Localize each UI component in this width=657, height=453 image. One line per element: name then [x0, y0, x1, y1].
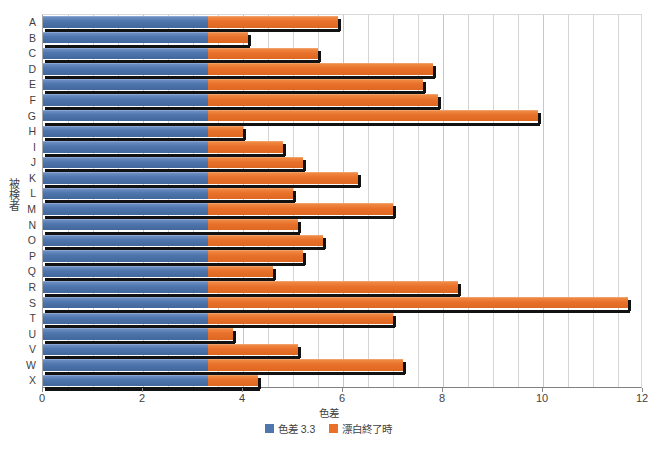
bar-shadow-edge	[303, 160, 306, 171]
x-axis-tick-label: 8	[422, 392, 462, 404]
bar-segment-final	[208, 48, 318, 59]
bar-segment-final	[208, 297, 628, 308]
bar-segment-final	[208, 281, 458, 292]
bar-group	[43, 359, 643, 370]
bar-chart: 被検者 ABCDEFGHIJKLMNOPQRSTUVWX 024681012 色…	[0, 0, 657, 453]
bar-group	[43, 281, 643, 292]
bar-segment-baseline	[43, 172, 208, 183]
bar-group	[43, 16, 643, 27]
bar-row: F	[43, 93, 641, 109]
y-axis-tick-label: K	[6, 171, 36, 187]
bar-segment-final	[208, 126, 243, 137]
bar-shadow-edge	[248, 35, 251, 46]
x-axis-tick-label: 10	[522, 392, 562, 404]
y-axis-tick-label: G	[6, 109, 36, 125]
legend-label: 色差 3.3	[278, 421, 316, 436]
bar-group	[43, 172, 643, 183]
bar-segment-final	[208, 157, 303, 168]
bar-group	[43, 266, 643, 277]
bar-group	[43, 250, 643, 261]
bar-segment-final	[208, 172, 358, 183]
bar-group	[43, 375, 643, 386]
bar-row: N	[43, 218, 641, 234]
legend-swatch-icon	[329, 424, 338, 433]
bar-segment-final	[208, 79, 423, 90]
chart-legend: 色差 3.3漂白終了時	[0, 421, 657, 436]
bar-row: H	[43, 124, 641, 140]
bar-row: X	[43, 373, 641, 389]
bar-segment-baseline	[43, 375, 208, 386]
bar-segment-final	[208, 328, 233, 339]
bar-segment-final	[208, 203, 393, 214]
y-axis-tick-label: R	[6, 280, 36, 296]
bar-row: Q	[43, 264, 641, 280]
bar-shadow-edge	[393, 316, 396, 327]
bar-shadow-edge	[293, 191, 296, 202]
bar-shadow-edge	[233, 331, 236, 342]
bar-row: W	[43, 358, 641, 374]
bar-group	[43, 32, 643, 43]
bar-shadow-edge	[358, 175, 361, 186]
bar-row: A	[43, 15, 641, 31]
y-axis-tick-label: M	[6, 202, 36, 218]
x-axis-tick-label: 12	[622, 392, 657, 404]
y-axis-tick-label: I	[6, 140, 36, 156]
bar-segment-final	[208, 219, 298, 230]
bar-shadow-edge	[538, 113, 541, 124]
legend-item[interactable]: 漂白終了時	[329, 421, 392, 436]
bar-segment-baseline	[43, 313, 208, 324]
bar-segment-final	[208, 235, 323, 246]
bar-row: C	[43, 46, 641, 62]
bar-segment-final	[208, 344, 298, 355]
bar-group	[43, 297, 643, 308]
bar-segment-baseline	[43, 359, 208, 370]
bar-group	[43, 328, 643, 339]
y-axis-tick-label: X	[6, 373, 36, 389]
y-axis-tick-label: J	[6, 155, 36, 171]
bar-group	[43, 126, 643, 137]
y-axis-tick-label: O	[6, 233, 36, 249]
bar-row: R	[43, 280, 641, 296]
bar-segment-final	[208, 63, 433, 74]
bar-group	[43, 344, 643, 355]
bar-row: U	[43, 327, 641, 343]
y-axis-tick-label: Q	[6, 264, 36, 280]
bar-segment-baseline	[43, 48, 208, 59]
legend-item[interactable]: 色差 3.3	[265, 421, 316, 436]
bar-segment-baseline	[43, 79, 208, 90]
y-axis-tick-label: D	[6, 62, 36, 78]
bar-shadow-edge	[393, 206, 396, 217]
y-axis-tick-label: L	[6, 186, 36, 202]
bar-segment-baseline	[43, 344, 208, 355]
bar-group	[43, 313, 643, 324]
y-axis-tick-label: S	[6, 296, 36, 312]
bar-row: S	[43, 296, 641, 312]
bar-segment-final	[208, 359, 403, 370]
bar-row: G	[43, 109, 641, 125]
bar-shadow-edge	[338, 19, 341, 30]
bar-row: T	[43, 311, 641, 327]
bar-shadow-edge	[298, 222, 301, 233]
bar-row: E	[43, 77, 641, 93]
bar-segment-baseline	[43, 63, 208, 74]
bar-shadow-edge	[403, 362, 406, 373]
x-axis-title: 色差	[0, 405, 657, 420]
bar-group	[43, 203, 643, 214]
bar-row: V	[43, 342, 641, 358]
y-axis-tick-label: N	[6, 218, 36, 234]
bar-segment-final	[208, 266, 273, 277]
y-axis-tick-label: T	[6, 311, 36, 327]
y-axis-tick-label: H	[6, 124, 36, 140]
bar-shadow-edge	[438, 97, 441, 108]
y-axis-tick-label: W	[6, 358, 36, 374]
bar-segment-baseline	[43, 32, 208, 43]
bar-segment-baseline	[43, 250, 208, 261]
bar-segment-baseline	[43, 94, 208, 105]
y-axis-tick-label: B	[6, 31, 36, 47]
bar-group	[43, 110, 643, 121]
bar-shadow-edge	[433, 66, 436, 77]
bar-segment-final	[208, 16, 338, 27]
bar-group	[43, 94, 643, 105]
bar-row: L	[43, 186, 641, 202]
bar-group	[43, 235, 643, 246]
